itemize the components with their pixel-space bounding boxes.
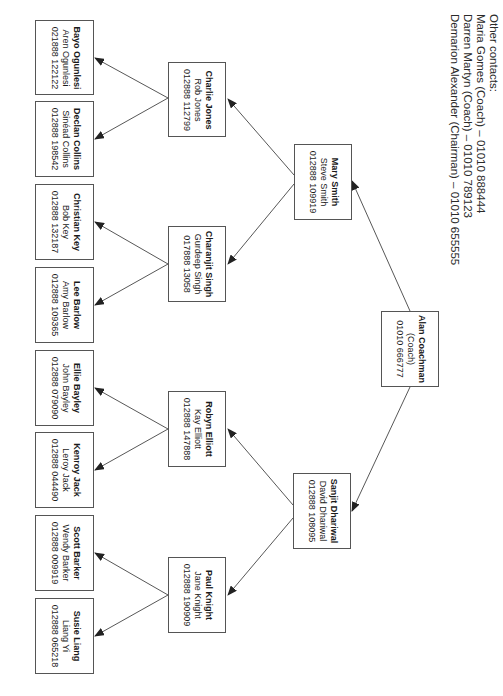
node-contact: Gurdeep Singh	[192, 231, 203, 298]
node-name: Susie Liang	[70, 605, 81, 668]
node-contact: Steve Smith	[318, 151, 329, 214]
node-phone: 012888 198542	[48, 108, 59, 171]
node-level3: Robyn Elliott Kay Elliott 012888 147888	[168, 391, 226, 467]
node-phone: 021888 122122	[48, 26, 59, 89]
node-root: Alan Coachman (Coach) 01010 666777	[381, 311, 439, 387]
node-phone: 012888 065218	[48, 605, 59, 668]
node-level4: Kenroy Jack Leroy Jack 012888 044490	[35, 432, 94, 508]
node-phone: 012888 190909	[181, 564, 192, 627]
node-contact: Amy Barlow	[59, 274, 70, 337]
node-name: Charanjit Singh	[203, 231, 214, 298]
node-name: Kenroy Jack	[70, 439, 81, 502]
node-level4: Scott Barker Wendy Barker 012888 009919	[35, 515, 94, 591]
node-level4: Lee Barlow Amy Barlow 012888 109365	[35, 267, 94, 343]
node-phone: 012888 109365	[48, 274, 59, 337]
other-contact-item: Darren Martyn (Coach) – 01010 789123	[461, 14, 474, 265]
node-contact: Sinéad Collins	[59, 108, 70, 171]
node-phone: 017888 13058	[181, 231, 192, 298]
node-contact: Jane Knight	[192, 564, 203, 627]
node-level2: Sanjit Dhariwal David Dhariwal 012888 10…	[293, 473, 351, 549]
node-phone: 012888 044490	[48, 439, 59, 502]
node-name: Declan Collins	[70, 108, 81, 171]
node-level3: Charanjit Singh Gurdeep Singh 017888 130…	[168, 226, 226, 302]
node-level4: Bayo Ogunlesi Aren Ogunlesi 021888 12212…	[35, 20, 94, 95]
node-name: Ellie Bayley	[70, 357, 81, 420]
node-level4: Susie Liang Liang Yi 012888 065218	[35, 598, 94, 674]
node-contact: Bob Key	[59, 191, 70, 254]
node-contact: Leroy Jack	[59, 439, 70, 502]
node-phone: 012888 108095	[306, 479, 317, 544]
other-contact-item: Demarion Alexander (Chairman) – 01010 65…	[448, 14, 461, 265]
node-phone: 012888 109919	[307, 151, 318, 214]
node-phone: 012888 079090	[48, 357, 59, 420]
node-phone: 012888 147888	[181, 398, 192, 461]
node-level4: Declan Collins Sinéad Collins 012888 198…	[35, 101, 94, 177]
node-name: Bayo Ogunlesi	[70, 26, 81, 89]
other-contacts: Other contacts: Maria Gomes (Coach) – 01…	[448, 14, 500, 265]
node-level4: Ellie Bayley John Bayley 012888 079090	[35, 350, 94, 426]
node-name: Scott Barker	[70, 522, 81, 585]
node-name: Christian Key	[70, 191, 81, 254]
node-phone: 012888 132187	[48, 191, 59, 254]
node-contact: Rob Jones	[192, 69, 203, 131]
node-name: Paul Knight	[203, 564, 214, 627]
other-contact-item: Maria Gomes (Coach) – 01010 888444	[474, 14, 487, 265]
node-phone: 012888 112799	[181, 69, 192, 131]
node-name: Alan Coachman	[416, 315, 427, 383]
node-level3: Paul Knight Jane Knight 012888 190909	[168, 557, 226, 633]
node-contact: David Dhariwal	[317, 479, 328, 544]
node-name: Mary Smith	[329, 151, 340, 214]
node-role: (Coach)	[405, 315, 416, 383]
node-contact: Wendy Barker	[59, 522, 70, 585]
node-name: Sanjit Dhariwal	[328, 479, 339, 544]
node-level3: Charlie Jones Rob Jones 012888 112799	[168, 62, 226, 137]
node-phone: 012888 009919	[48, 522, 59, 585]
node-contact: Kay Elliott	[192, 398, 203, 461]
node-contact: John Bayley	[59, 357, 70, 420]
node-name: Robyn Elliott	[203, 398, 214, 461]
node-name: Lee Barlow	[70, 274, 81, 337]
node-contact: Aren Ogunlesi	[59, 26, 70, 89]
node-contact: Liang Yi	[59, 605, 70, 668]
node-level4: Christian Key Bob Key 012888 132187	[35, 184, 94, 260]
other-contacts-heading: Other contacts:	[487, 14, 500, 265]
node-name: Charlie Jones	[203, 69, 214, 131]
node-level2: Mary Smith Steve Smith 012888 109919	[294, 144, 352, 220]
node-phone: 01010 666777	[394, 315, 405, 383]
